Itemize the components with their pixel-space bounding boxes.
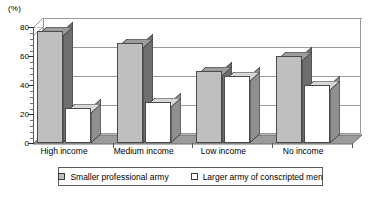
bar-top-face: [117, 34, 153, 43]
bar-medium-income-series-2: [145, 102, 171, 143]
bar-top-face: [224, 67, 260, 76]
bar-top-face: [276, 47, 312, 56]
x-axis-labels: High incomeMedium incomeLow incomeNo inc…: [0, 146, 381, 162]
bar-no-income-series-2: [304, 85, 330, 143]
bar-high-income-series-2: [65, 108, 91, 143]
bar-chart: (%) 80 60 40: [0, 0, 381, 199]
x-label-high-income: High income: [40, 146, 87, 156]
bar-medium-income-series-1: [117, 43, 143, 143]
legend-label: Larger army of conscripted men: [203, 172, 323, 182]
y-axis-tick-labels: 80 60 40 20 0: [0, 0, 33, 160]
legend-swatch-icon: [58, 173, 65, 180]
legend-swatch-icon: [191, 173, 198, 180]
bar-front-face: [117, 43, 143, 143]
bar-top-face: [37, 22, 73, 31]
bar-top-face: [65, 99, 101, 108]
x-label-medium-income: Medium income: [114, 146, 174, 156]
bar-no-income-series-1: [276, 56, 302, 143]
bar-top-face: [145, 93, 181, 102]
bar-front-face: [65, 108, 91, 143]
bar-front-face: [37, 31, 63, 143]
bar-series-layer: [33, 18, 362, 144]
chart-legend: Smaller professional army Larger army of…: [58, 167, 323, 186]
x-label-low-income: Low income: [201, 146, 246, 156]
legend-label: Smaller professional army: [70, 172, 168, 182]
bar-front-face: [224, 76, 250, 143]
legend-item-larger-army-of-conscripted-men[interactable]: Larger army of conscripted men: [191, 172, 323, 182]
x-label-no-income: No income: [283, 146, 324, 156]
bar-front-face: [145, 102, 171, 143]
bar-front-face: [304, 85, 330, 143]
bar-top-face: [304, 76, 340, 85]
legend-item-smaller-professional-army[interactable]: Smaller professional army: [58, 172, 168, 182]
bar-low-income-series-1: [196, 71, 222, 144]
bar-front-face: [276, 56, 302, 143]
bar-high-income-series-1: [37, 31, 63, 143]
bar-low-income-series-2: [224, 76, 250, 143]
bar-front-face: [196, 71, 222, 144]
